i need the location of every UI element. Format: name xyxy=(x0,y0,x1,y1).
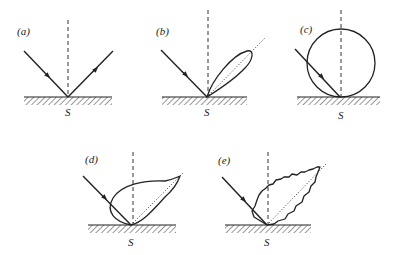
incident-ray xyxy=(295,49,340,97)
surface-label-e: S xyxy=(264,236,270,248)
panel-c: (c) S xyxy=(295,10,380,121)
surface-hatch xyxy=(24,97,112,105)
panel-label-b: (b) xyxy=(156,25,169,38)
panel-a: (a) S xyxy=(17,20,113,118)
surface-label-b: S xyxy=(204,106,210,118)
panel-b: (b) S xyxy=(156,10,265,118)
surface-label-d: S xyxy=(128,236,134,248)
incident-ray xyxy=(83,176,131,225)
panel-label-e: (e) xyxy=(218,154,231,167)
surface-label-c: S xyxy=(338,109,344,121)
surface-hatch xyxy=(297,97,380,105)
reflected-ray xyxy=(68,51,113,97)
incident-ray xyxy=(222,177,267,225)
panel-label-d: (d) xyxy=(85,153,98,166)
surface-hatch xyxy=(88,225,176,233)
specular-direction xyxy=(207,38,265,97)
incident-arrow-icon xyxy=(44,72,48,76)
reflection-lobe xyxy=(252,167,320,225)
panel-label-c: (c) xyxy=(300,23,313,36)
surface-label-a: S xyxy=(65,106,71,118)
panel-label-a: (a) xyxy=(17,25,30,38)
panel-e: (e) S xyxy=(218,152,326,248)
specular-direction xyxy=(131,172,184,225)
incident-arrow-icon xyxy=(240,196,244,200)
specular-direction xyxy=(267,164,326,225)
surface-hatch xyxy=(225,225,311,233)
surface-hatch xyxy=(162,97,247,105)
reflection-lobe xyxy=(110,176,180,225)
panel-d: (d) S xyxy=(83,152,184,248)
reflection-diagram: (a) S (b) S (c) S (d) xyxy=(0,0,398,255)
